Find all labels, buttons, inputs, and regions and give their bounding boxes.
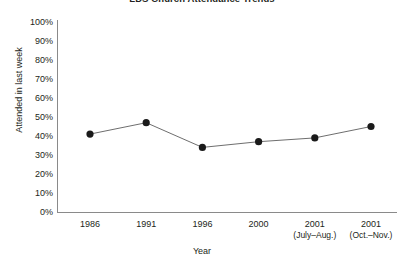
x-axis-tick-label: 1986 <box>80 219 100 230</box>
x-axis-tick-label: 2001(Oct.–Nov.) <box>350 219 393 241</box>
data-point <box>86 131 93 138</box>
x-axis-tick-label: 1991 <box>136 219 156 230</box>
x-axis-tick-label: 2001(July–Aug.) <box>293 219 336 241</box>
x-axis-tick-label: 1996 <box>192 219 212 230</box>
x-axis-tick-label: 2000 <box>249 219 269 230</box>
data-point-markers <box>86 119 374 151</box>
x-axis-tick-sublabel: (Oct.–Nov.) <box>350 230 393 241</box>
x-axis-tick-sublabel: (July–Aug.) <box>293 230 336 241</box>
series-line <box>90 123 371 148</box>
data-point <box>255 138 262 145</box>
data-point <box>199 144 206 151</box>
data-point <box>143 119 150 126</box>
data-point <box>311 134 318 141</box>
chart-container: LDS Church Attendance Trends Attended in… <box>0 0 404 259</box>
data-point <box>367 123 374 130</box>
x-axis-title: Year <box>0 246 404 256</box>
